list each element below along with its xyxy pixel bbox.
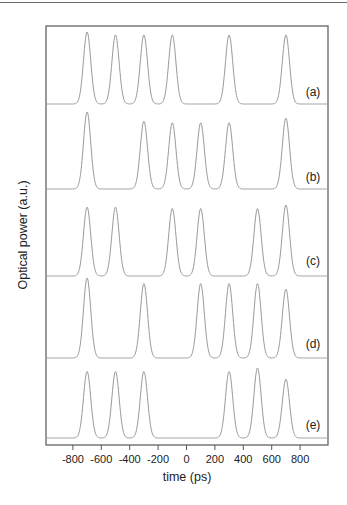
panel-label-a: (a) (306, 85, 321, 99)
x-tick-label: 200 (206, 453, 224, 465)
x-tick-label: 600 (263, 453, 281, 465)
panel-label-d: (d) (306, 337, 321, 351)
x-tick-label: 0 (183, 453, 189, 465)
trace-c (47, 205, 327, 276)
y-axis-label: Optical power (a.u.) (16, 180, 30, 289)
panel-label-b: (b) (306, 170, 321, 184)
x-tick-label: -800 (62, 453, 84, 465)
x-tick-label: -200 (147, 453, 169, 465)
x-axis-label: time (ps) (163, 470, 212, 484)
pulse-train-chart: -800-600-400-2000200400600800 (a)(b)(c)(… (0, 0, 347, 505)
x-tick-label: 400 (234, 453, 252, 465)
traces-group (47, 32, 327, 438)
x-tick-label: -400 (119, 453, 141, 465)
trace-a (47, 32, 327, 104)
trace-e (47, 368, 327, 438)
trace-b (47, 112, 327, 189)
plot-frame (46, 26, 328, 445)
panel-labels: (a)(b)(c)(d)(e) (306, 85, 321, 432)
panel-label-e: (e) (306, 418, 321, 432)
panel-label-c: (c) (306, 254, 320, 268)
trace-d (47, 278, 327, 358)
x-tick-label: -600 (90, 453, 112, 465)
x-tick-label: 800 (291, 453, 309, 465)
x-axis-ticks: -800-600-400-2000200400600800 (62, 445, 309, 465)
